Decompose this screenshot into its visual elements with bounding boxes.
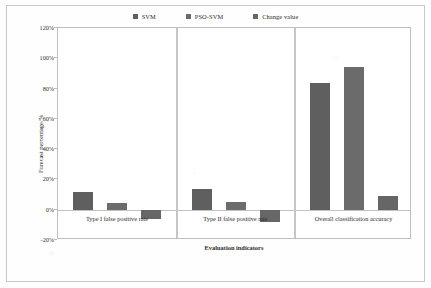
bar-pso-svm-group-3[interactable] (344, 67, 364, 209)
y-axis-tick-label: 20% (18, 175, 54, 182)
legend-label: Change value (262, 13, 298, 20)
legend-swatch-pso-svm-icon (186, 14, 191, 19)
bar-group-3: Overall classification accuracy (294, 28, 412, 238)
legend-label: PSO-SVM (195, 13, 223, 20)
y-axis-tick-label: 80% (18, 84, 54, 91)
y-axis-tick-label: 100% (18, 54, 54, 61)
bar-svm-group-2[interactable] (192, 189, 212, 210)
bar-group-2: Type II false positive rate (176, 28, 294, 238)
bar-pso-svm-group-2[interactable] (226, 202, 246, 210)
chart-figure: SVMPSO-SVMChange value Forecast percenta… (0, 0, 431, 288)
bar-svm-group-3[interactable] (310, 83, 330, 210)
x-axis-category-label: Type I false positive rate (58, 215, 176, 222)
legend-item-svm[interactable]: SVM (133, 13, 156, 20)
group-separator (295, 28, 296, 238)
x-axis-category-label: Overall classification accuracy (295, 215, 412, 222)
group-separator (177, 28, 178, 238)
y-axis-tick-mark (54, 239, 57, 240)
y-axis-tick-label: 40% (18, 145, 54, 152)
bar-group-1: Type I false positive rate (58, 28, 176, 238)
bar-pso-svm-group-1[interactable] (107, 203, 127, 210)
plot-area: Type I false positive rateType II false … (57, 27, 411, 239)
legend-swatch-change-value-icon (253, 14, 258, 19)
legend-item-change-value[interactable]: Change value (253, 13, 298, 20)
y-axis-tick-label: 60% (18, 114, 54, 121)
y-axis-tick-label: 0% (18, 205, 54, 212)
bar-change-value-group-3[interactable] (378, 196, 398, 210)
x-axis-title: Evaluation indicators (57, 244, 411, 251)
y-axis-tick-label: -20% (18, 236, 54, 243)
y-axis-tick-label: 120% (18, 24, 54, 31)
bar-svm-group-1[interactable] (73, 192, 93, 210)
legend-item-pso-svm[interactable]: PSO-SVM (186, 13, 223, 20)
legend-swatch-svm-icon (133, 14, 138, 19)
legend-label: SVM (142, 13, 156, 20)
x-axis-category-label: Type II false positive rate (177, 215, 294, 222)
chart-legend: SVMPSO-SVMChange value (0, 13, 431, 20)
